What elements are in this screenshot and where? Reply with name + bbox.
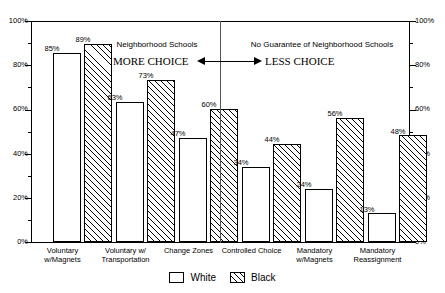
less-choice-arrow-head-icon <box>254 57 262 65</box>
bar-black-voluntary-magnets <box>84 44 112 242</box>
y-axis-right-tick-80: 80% <box>415 61 430 69</box>
bar-black-change-zones <box>210 109 238 242</box>
x-axis-label-voluntary-transportation: Voluntary w/ Transportation <box>94 247 157 264</box>
more-choice-arrow-line <box>205 61 221 62</box>
value-black-voluntary-magnets: 89% <box>69 36 97 44</box>
y-axis-left-tick-60: 60% <box>13 105 28 113</box>
value-white-controlled-choice: 34% <box>227 159 255 167</box>
bar-white-change-zones <box>179 138 207 242</box>
bar-black-mandatory-magnets <box>336 118 364 242</box>
more-choice-arrow-head-icon <box>197 57 205 65</box>
value-white-mandatory-magnets: 24% <box>290 181 318 189</box>
bar-black-mandatory-reassignment <box>399 135 427 242</box>
value-white-voluntary-magnets: 85% <box>38 45 66 53</box>
legend-label-white: White <box>190 272 216 283</box>
less-choice-label: LESS CHOICE <box>265 55 334 67</box>
region-label-right: No Guarantee of Neighborhood Schools <box>232 40 412 49</box>
bar-white-voluntary-magnets <box>53 53 81 242</box>
y-axis-right-tickmark <box>410 21 416 22</box>
x-axis-label-change-zones: Change Zones <box>157 247 220 256</box>
less-choice-arrow-line <box>220 61 255 62</box>
y-axis-right-tickmark <box>410 110 416 111</box>
y-axis-right-tick-60: 60% <box>415 105 430 113</box>
y-axis-right-tickmark-minor <box>410 87 413 88</box>
more-choice-label: MORE CHOICE <box>113 55 188 67</box>
x-axis-label-controlled-choice: Controlled Choice <box>220 247 283 256</box>
bar-white-voluntary-transportation <box>116 102 144 242</box>
legend-swatch-white-icon <box>169 272 184 283</box>
value-black-voluntary-transportation: 73% <box>132 72 160 80</box>
region-label-left: Neighborhood Schools <box>102 40 212 49</box>
x-axis-label-mandatory-reassignment: Mandatory Reassignment <box>346 247 409 264</box>
value-white-voluntary-transportation: 63% <box>101 94 129 102</box>
region-divider <box>220 21 221 243</box>
x-axis-label-voluntary-magnets: Voluntary w/Magnets <box>31 247 94 264</box>
bar-white-mandatory-reassignment <box>368 213 396 242</box>
chart-legend: White Black <box>0 272 445 283</box>
legend-item-black: Black <box>230 272 275 283</box>
value-black-mandatory-reassignment: 48% <box>384 128 412 136</box>
bar-black-voluntary-transportation <box>147 80 175 242</box>
y-axis-right-tick-100: 100% <box>415 17 434 25</box>
y-axis-right-tickmark <box>410 242 416 243</box>
value-white-change-zones: 47% <box>164 130 192 138</box>
legend-label-black: Black <box>251 272 275 283</box>
bar-white-controlled-choice <box>242 167 270 243</box>
value-black-controlled-choice: 44% <box>258 136 286 144</box>
x-axis-label-mandatory-magnets: Mandatory w/Magnets <box>283 247 346 264</box>
legend-item-white: White <box>169 272 216 283</box>
y-axis-right-tickmark <box>410 65 416 66</box>
bar-black-controlled-choice <box>273 144 301 242</box>
bar-chart: 100% 80% 60% 40% 20% 0% 100% 80% 60% 40%… <box>0 0 445 293</box>
value-black-change-zones: 60% <box>195 101 223 109</box>
bar-white-mandatory-magnets <box>305 189 333 242</box>
value-white-mandatory-reassignment: 13% <box>353 206 381 214</box>
value-black-mandatory-magnets: 56% <box>321 110 349 118</box>
legend-swatch-black-icon <box>230 272 245 283</box>
